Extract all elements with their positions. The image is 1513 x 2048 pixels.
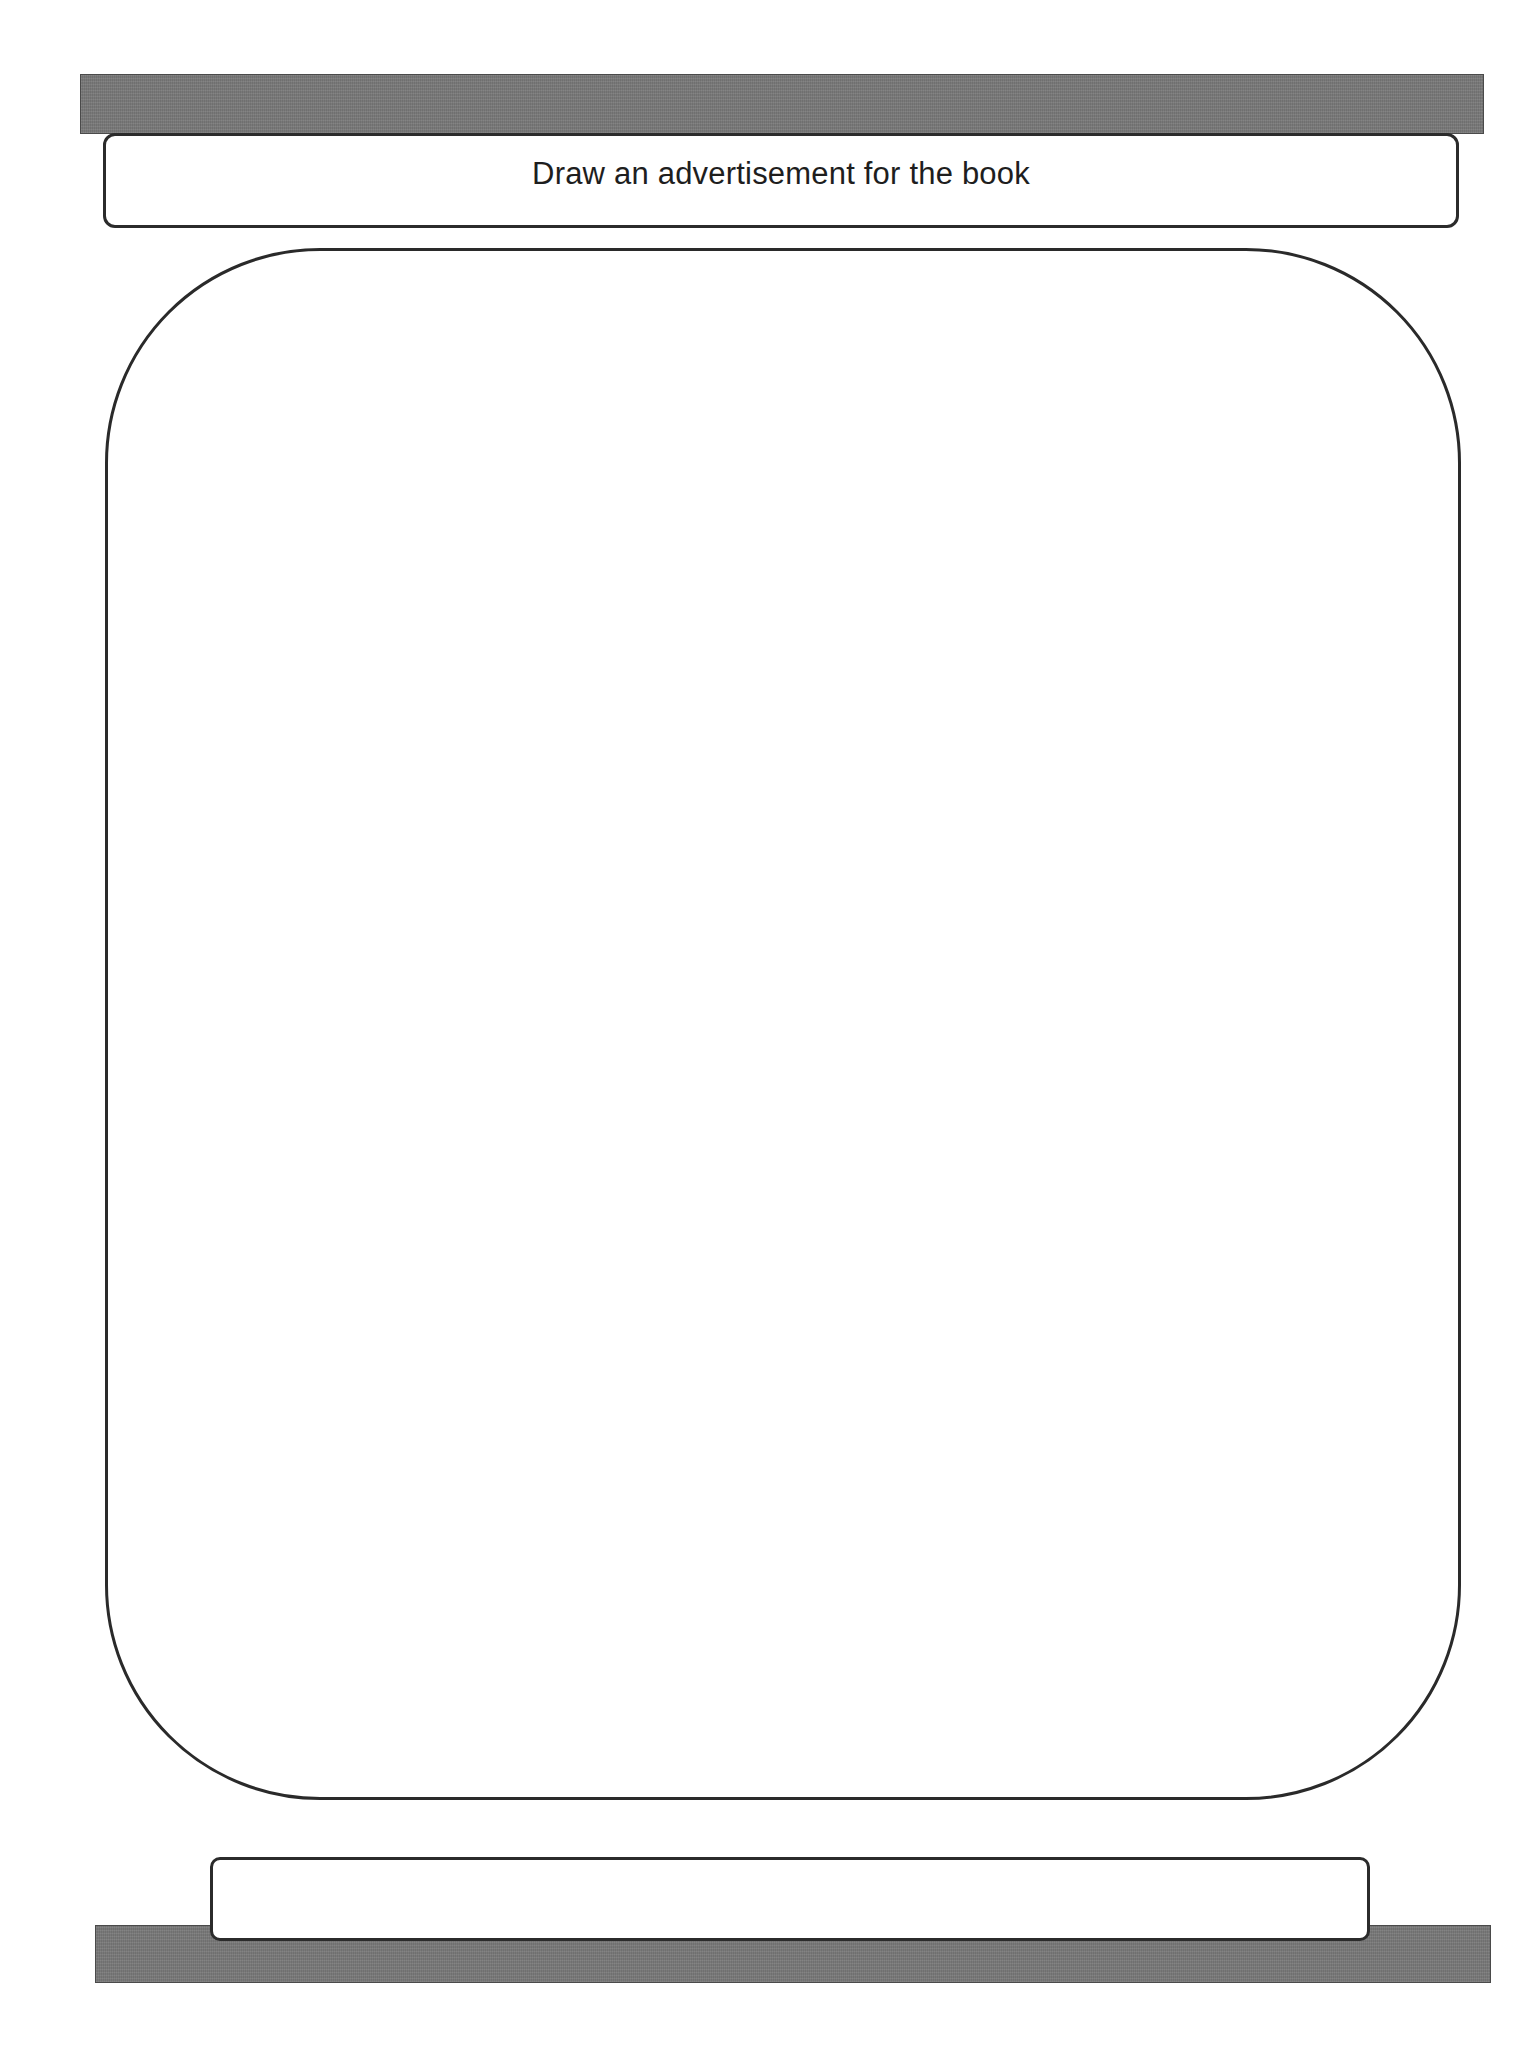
title-prompt-text: Draw an advertisement for the book bbox=[532, 156, 1030, 192]
top-decorative-bar bbox=[80, 74, 1484, 134]
caption-box[interactable] bbox=[210, 1857, 1370, 1941]
title-prompt-box: Draw an advertisement for the book bbox=[103, 133, 1459, 228]
drawing-area-frame[interactable] bbox=[105, 248, 1461, 1800]
